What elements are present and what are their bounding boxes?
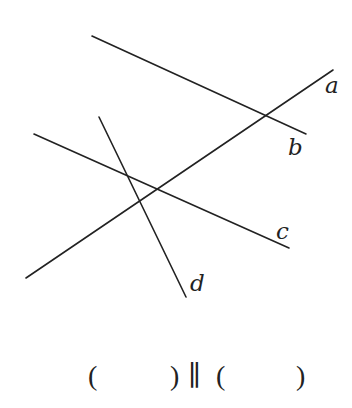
parallel-symbol: ∥ [188, 356, 201, 396]
left-open-paren: ( [88, 356, 97, 396]
line-b [92, 36, 306, 134]
label-b: b [288, 134, 303, 160]
parallel-lines-diagram: a b c d [0, 0, 352, 408]
label-a: a [325, 72, 339, 98]
left-close-paren: ) [170, 356, 179, 396]
right-answer-blank[interactable] [228, 356, 296, 386]
label-c: c [276, 218, 289, 244]
line-c [34, 134, 289, 248]
right-close-paren: ) [296, 356, 305, 396]
left-answer-blank[interactable] [100, 356, 170, 386]
right-open-paren: ( [216, 356, 225, 396]
label-d: d [190, 270, 205, 296]
answer-row: ( ) ∥ ( ) [0, 356, 352, 396]
line-d [99, 117, 186, 297]
